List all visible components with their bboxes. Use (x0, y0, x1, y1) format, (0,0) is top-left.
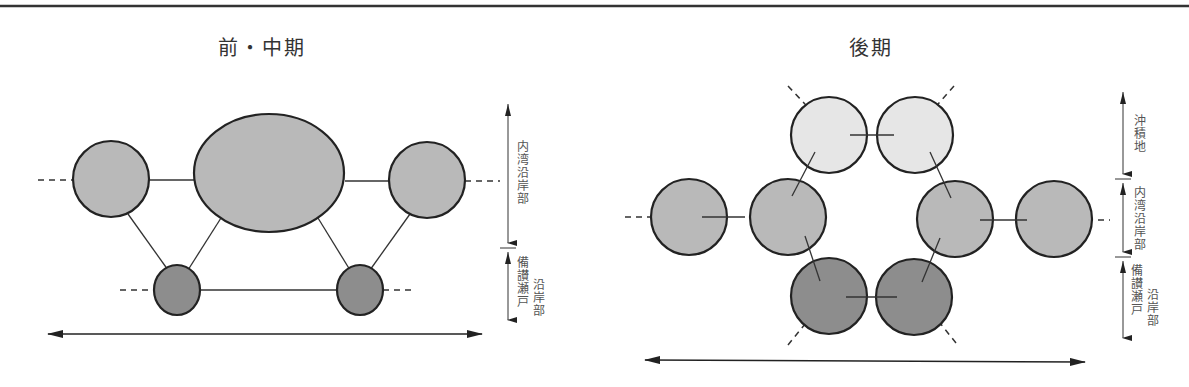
link-line (370, 214, 410, 270)
site-node-bay-far-right (1016, 181, 1092, 257)
panel-title-early-middle: 前・中期 (218, 32, 306, 61)
scale-label-bisan-coast-sub: 沿岸部 (1144, 288, 1157, 327)
arrow-head-up (505, 252, 511, 264)
panel-title-late: 後期 (849, 32, 893, 61)
site-node-coast-right (337, 265, 383, 315)
scale-label-bisan-coast-sub: 沿岸部 (530, 278, 543, 317)
panel-late (625, 86, 1131, 362)
scale-label-bay-coast: 内湾沿岸部 (1131, 186, 1144, 251)
site-node-coast-left (154, 265, 200, 315)
panel-early-middle (38, 104, 516, 334)
settlement-network-diagram (0, 0, 1189, 387)
site-node-bay-central-large (194, 114, 344, 232)
site-node-bay-right (389, 142, 465, 218)
horizontal-range-arrow (645, 360, 1085, 362)
link-line (128, 214, 168, 270)
link-line (318, 218, 350, 270)
link-line (188, 218, 221, 270)
scale-label-bisan-seto: 備讃瀬戸 (514, 256, 527, 308)
arrow-head-up (1120, 92, 1126, 104)
site-node-coast-left (791, 258, 867, 334)
site-node-bay-right (917, 181, 993, 257)
scale-label-alluvial: 沖積地 (1131, 114, 1144, 153)
site-node-bay-left (73, 141, 149, 217)
arrow-head-up (1120, 261, 1126, 273)
arrow-head-up (505, 104, 511, 116)
site-node-bay-left (750, 179, 826, 255)
arrow-head-up (1120, 183, 1126, 195)
scale-label-bay-coast: 内湾沿岸部 (514, 140, 527, 205)
scale-label-bisan-seto: 備讃瀬戸 (1128, 264, 1141, 316)
